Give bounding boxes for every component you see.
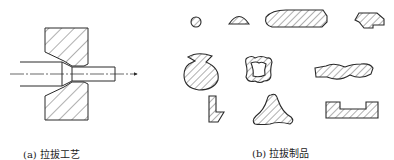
caption-panel-b: (b) 拉拔制品 <box>252 145 309 160</box>
product-twisted-flat-bar <box>315 64 373 79</box>
panel-b-drawn-products <box>184 10 384 125</box>
die-upper-half <box>45 28 88 66</box>
product-tri-lobed-profile <box>253 94 293 124</box>
product-notched-round-bar <box>184 54 218 90</box>
product-square-tube-wavy <box>246 57 272 83</box>
die-lower-half <box>45 82 88 120</box>
panel-a-drawing-process <box>10 28 137 120</box>
product-channel-profile <box>326 102 378 118</box>
figure-canvas <box>0 0 394 160</box>
caption-panel-a: (a) 拉拔工艺 <box>23 146 80 160</box>
product-L-shaped-profile <box>209 96 224 122</box>
product-flat-bar-chamfered <box>266 10 327 27</box>
product-half-round-bar <box>229 17 249 25</box>
product-stepped-bar <box>355 13 384 28</box>
product-small-round-bar <box>191 17 201 27</box>
